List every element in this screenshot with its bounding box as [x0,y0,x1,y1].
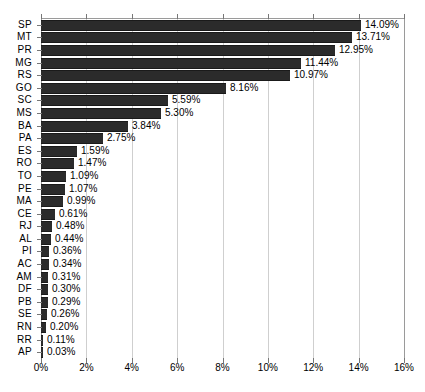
bar [41,108,161,119]
value-axis-label: 14% [349,362,369,374]
axis-tick-top [223,14,224,19]
bar-row: 10.97% [41,70,404,79]
axis-tick-top [86,14,87,19]
bar-value-label: 0.61% [55,209,87,219]
category-label-ac: AC [18,259,33,269]
axis-tick-left [37,151,42,152]
plot-area: 14.09%13.71%12.95%11.44%10.97%8.16%5.59%… [41,18,404,358]
bar-row: 1.07% [41,184,404,193]
category-label-pe: PE [18,184,32,194]
category-label-ap: AP [18,347,32,357]
bar-value-label: 1.09% [66,171,98,181]
bar-value-label: 0.03% [43,347,75,357]
axis-tick-left [37,302,42,303]
axis-tick-left [37,176,42,177]
axis-tick-top [359,14,360,19]
axis-tick-left [37,138,42,139]
axis-tick-left [37,277,42,278]
axis-tick-left [37,50,42,51]
bar-value-label: 0.44% [51,234,83,244]
bar-value-label: 2.75% [103,133,135,143]
bar [41,146,77,157]
bar-value-label: 12.95% [335,45,373,55]
bar [41,133,103,144]
bar-value-label: 8.16% [226,83,258,93]
bar-row: 0.31% [41,272,404,281]
axis-tick-left [37,239,42,240]
bar-value-label: 5.59% [168,95,200,105]
bar [41,70,290,81]
axis-tick-top [268,14,269,19]
bar-value-label: 11.44% [301,58,338,68]
bar-row: 5.30% [41,108,404,117]
bar-row: 3.84% [41,121,404,130]
bar [41,272,48,283]
axis-tick-left [37,37,42,38]
category-label-ro: RO [16,158,32,168]
axis-tick-left [37,126,42,127]
axis-tick-left [37,214,42,215]
axis-tick-top [41,14,42,19]
axis-tick-left [37,289,42,290]
bar-value-label: 5.30% [161,108,193,118]
bar-row: 0.99% [41,196,404,205]
bar-value-label: 0.31% [48,272,80,282]
value-axis-label: 8% [215,362,229,374]
category-label-mg: MG [15,58,32,68]
value-axis-label: 2% [79,362,93,374]
bar-value-label: 10.97% [290,70,328,80]
bar-row: 0.26% [41,309,404,318]
axis-tick-left [37,189,42,190]
category-label-am: AM [16,272,32,282]
category-label-mt: MT [17,32,32,42]
bar-value-label: 0.48% [52,221,84,231]
bar-row: 1.09% [41,171,404,180]
axis-tick-left [37,352,42,353]
bar-row: 1.59% [41,146,404,155]
value-axis-label: 0% [34,362,48,374]
axis-tick-left [37,113,42,114]
bar-row: 0.61% [41,209,404,218]
bar-row: 0.03% [41,347,404,356]
bar-row: 0.34% [41,259,404,268]
bar-row: 0.44% [41,234,404,243]
category-label-pb: PB [18,297,32,307]
bar-row: 8.16% [41,83,404,92]
category-label-ms: MS [16,108,32,118]
axis-tick-left [37,327,42,328]
value-axis-label: 12% [303,362,323,374]
bar [41,83,226,94]
bar [41,158,74,169]
category-label-ce: CE [18,209,33,219]
bar [41,95,168,106]
bar-value-label: 0.11% [43,335,75,345]
bar-row: 13.71% [41,32,404,41]
bar-value-label: 14.09% [361,20,399,30]
category-label-to: TO [18,171,32,181]
axis-tick-left [37,226,42,227]
category-label-pi: PI [22,246,32,256]
value-axis-labels: 0%2%4%6%8%10%12%14%16% [41,362,404,378]
bar [41,284,48,295]
value-axis-label: 6% [170,362,184,374]
category-label-go: GO [16,83,32,93]
value-axis-label: 16% [394,362,414,374]
bar-value-label: 0.34% [49,259,81,269]
bar-row: 12.95% [41,45,404,54]
category-label-rr: RR [17,335,32,345]
bar [41,121,128,132]
bar [41,171,66,182]
bar-value-label: 0.26% [47,309,79,319]
bar-value-label: 1.07% [65,184,97,194]
axis-tick-left [37,264,42,265]
bar-value-label: 13.71% [352,32,390,42]
axis-tick-top [132,14,133,19]
category-label-ba: BA [18,121,32,131]
bar [41,297,48,308]
bar-value-label: 0.36% [49,246,81,256]
axis-tick-left [37,314,42,315]
category-label-al: AL [19,234,32,244]
bar-row: 0.30% [41,284,404,293]
category-label-sc: SC [18,95,33,105]
bar-row: 0.20% [41,322,404,331]
